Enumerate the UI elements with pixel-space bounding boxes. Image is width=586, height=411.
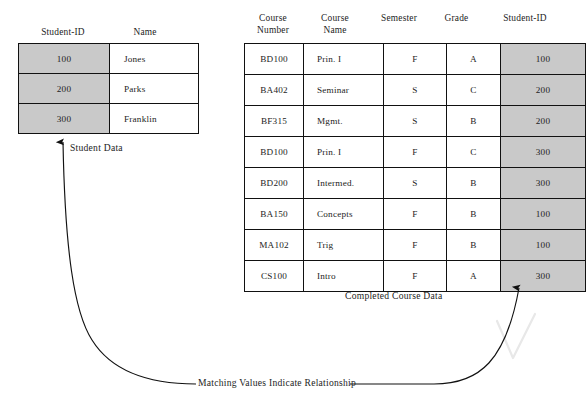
course-name-cell: Prin. I bbox=[304, 137, 384, 168]
course-number-cell: BD200 bbox=[245, 168, 304, 199]
grade-cell: B bbox=[447, 230, 501, 261]
student-name-cell: Jones bbox=[110, 44, 199, 74]
semester-cell: F bbox=[384, 137, 447, 168]
course-name-cell: Intermed. bbox=[304, 168, 384, 199]
student-header-name: Name bbox=[108, 27, 182, 39]
course-number-cell: CS100 bbox=[245, 261, 304, 292]
semester-cell: F bbox=[384, 230, 447, 261]
table-row: 200 Parks bbox=[19, 74, 199, 104]
course-table-body: BD100 Prin. I F A 100 BA402 Seminar S C … bbox=[245, 44, 586, 292]
grade-cell: B bbox=[447, 199, 501, 230]
semester-cell: S bbox=[384, 75, 447, 106]
student-id-cell: 100 bbox=[501, 44, 586, 75]
semester-cell: S bbox=[384, 106, 447, 137]
semester-cell: F bbox=[384, 261, 447, 292]
student-id-cell: 300 bbox=[19, 104, 110, 134]
course-name-cell: Prin. I bbox=[304, 44, 384, 75]
student-name-cell: Parks bbox=[110, 74, 199, 104]
course-number-cell: BD100 bbox=[245, 44, 304, 75]
relationship-caption: Matching Values Indicate Relationship bbox=[198, 377, 356, 388]
table-row: BD100 Prin. I F A 100 bbox=[245, 44, 586, 75]
semester-cell: S bbox=[384, 168, 447, 199]
course-header-semester: Semester bbox=[368, 13, 430, 25]
grade-cell: B bbox=[447, 168, 501, 199]
arrow-to-course-table bbox=[350, 288, 519, 384]
student-id-cell: 200 bbox=[501, 75, 586, 106]
table-row: BF315 Mgmt. S B 200 bbox=[245, 106, 586, 137]
student-id-cell: 300 bbox=[501, 137, 586, 168]
course-header-grade: Grade bbox=[430, 13, 483, 25]
course-header-course-name: Course Name bbox=[302, 13, 368, 36]
table-row: 100 Jones bbox=[19, 44, 199, 74]
student-id-cell: 200 bbox=[501, 106, 586, 137]
semester-cell: F bbox=[384, 44, 447, 75]
table-row: BD200 Intermed. S B 300 bbox=[245, 168, 586, 199]
course-name-cell: Concepts bbox=[304, 199, 384, 230]
student-header-student-id: Student-ID bbox=[18, 27, 108, 39]
semester-cell: F bbox=[384, 199, 447, 230]
grade-cell: A bbox=[447, 261, 501, 292]
arrow-to-student-table bbox=[63, 142, 196, 384]
grade-cell: C bbox=[447, 75, 501, 106]
course-number-cell: BD100 bbox=[245, 137, 304, 168]
completed-course-data-table: BD100 Prin. I F A 100 BA402 Seminar S C … bbox=[244, 43, 586, 292]
table-row: 300 Franklin bbox=[19, 104, 199, 134]
course-number-cell: MA102 bbox=[245, 230, 304, 261]
course-number-cell: BA402 bbox=[245, 75, 304, 106]
student-id-cell: 300 bbox=[501, 261, 586, 292]
student-name-cell: Franklin bbox=[110, 104, 199, 134]
course-header-course-number: Course Number bbox=[244, 13, 302, 36]
grade-cell: A bbox=[447, 44, 501, 75]
student-id-cell: 100 bbox=[501, 230, 586, 261]
course-name-cell: Mgmt. bbox=[304, 106, 384, 137]
course-table-caption: Completed Course Data bbox=[345, 290, 442, 301]
scan-artifact-checkmark bbox=[497, 314, 535, 358]
grade-cell: B bbox=[447, 106, 501, 137]
student-id-cell: 300 bbox=[501, 168, 586, 199]
student-id-cell: 200 bbox=[19, 74, 110, 104]
student-id-cell: 100 bbox=[19, 44, 110, 74]
student-table-body: 100 Jones 200 Parks 300 Franklin bbox=[19, 44, 199, 134]
course-name-cell: Trig bbox=[304, 230, 384, 261]
table-row: BD100 Prin. I F C 300 bbox=[245, 137, 586, 168]
table-row: MA102 Trig F B 100 bbox=[245, 230, 586, 261]
course-header-student-id: Student-ID bbox=[483, 13, 567, 25]
student-table-caption: Student Data bbox=[70, 142, 123, 153]
course-number-cell: BA150 bbox=[245, 199, 304, 230]
course-name-cell: Seminar bbox=[304, 75, 384, 106]
student-id-cell: 100 bbox=[501, 199, 586, 230]
course-name-cell: Intro bbox=[304, 261, 384, 292]
table-row: BA402 Seminar S C 200 bbox=[245, 75, 586, 106]
table-row: CS100 Intro F A 300 bbox=[245, 261, 586, 292]
table-row: BA150 Concepts F B 100 bbox=[245, 199, 586, 230]
grade-cell: C bbox=[447, 137, 501, 168]
student-data-table: 100 Jones 200 Parks 300 Franklin bbox=[18, 43, 199, 134]
course-number-cell: BF315 bbox=[245, 106, 304, 137]
